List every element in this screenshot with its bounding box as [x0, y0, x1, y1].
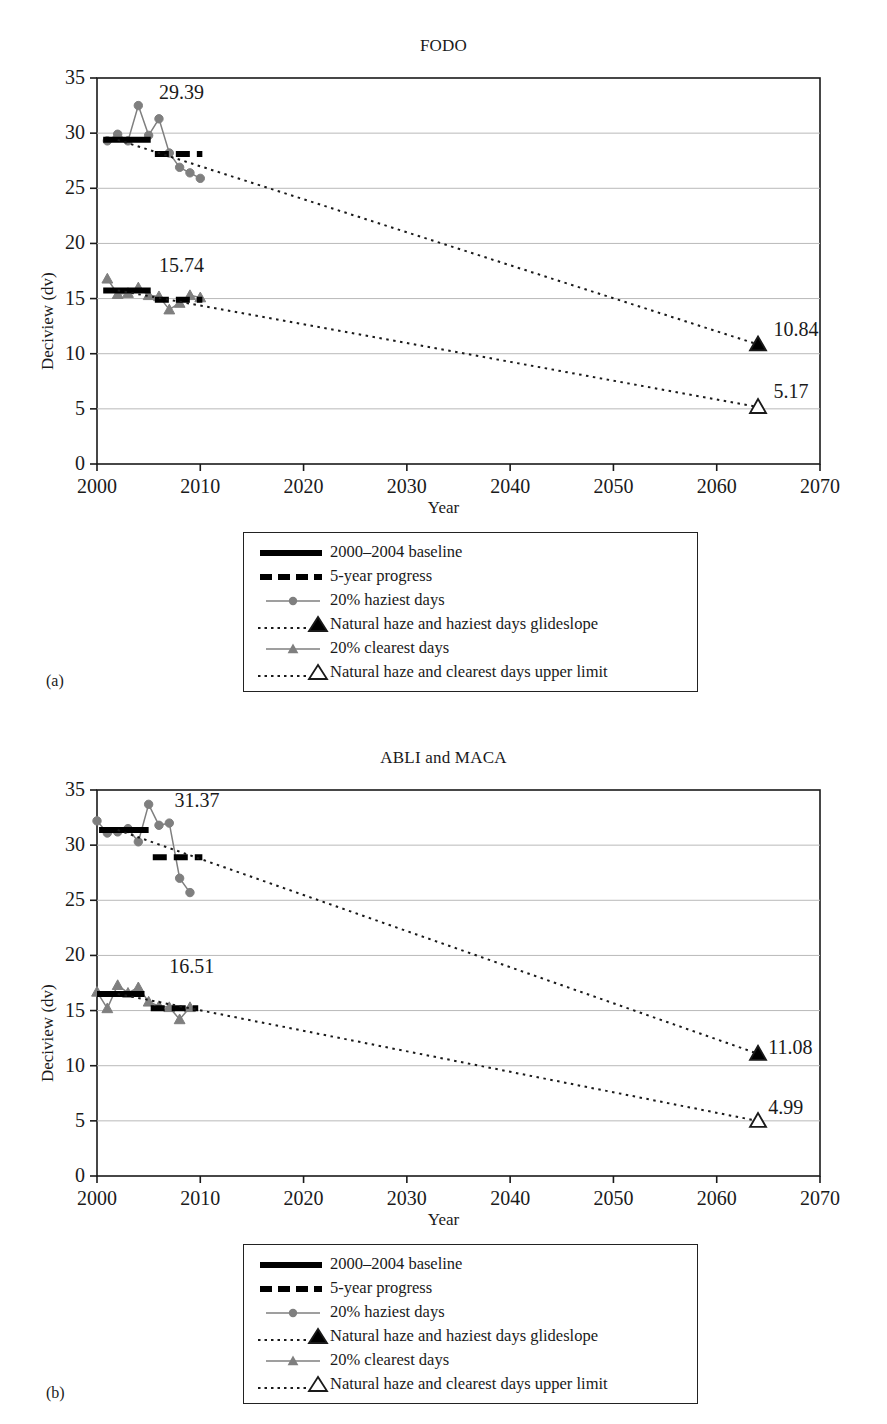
x-axis-tick-label: 2010: [180, 475, 220, 497]
data-point-marker: [134, 101, 142, 109]
data-point-marker: [186, 888, 194, 896]
y-axis-tick-label: 5: [75, 397, 85, 419]
legend-label: Natural haze and haziest days glideslope: [330, 1328, 598, 1345]
x-axis-tick-label: 2050: [593, 1187, 633, 1209]
legend-key-clearest-limit: [256, 1374, 330, 1394]
legend-label: 5-year progress: [330, 568, 432, 585]
legend-swatch-haziest-glideslope: [256, 614, 330, 634]
y-axis-tick-label: 20: [65, 943, 85, 965]
legend-key-haziest-glideslope: [256, 614, 330, 634]
legend-a: 2000–2004 baseline5-year progress20% haz…: [243, 532, 698, 692]
y-axis-tick-label: 35: [65, 778, 85, 800]
legend-item-progress: 5-year progress: [244, 1276, 697, 1300]
legend-item-baseline: 2000–2004 baseline: [244, 540, 697, 564]
x-axis-label-b: Year: [0, 1210, 887, 1230]
legend-swatch-progress: [256, 566, 330, 586]
y-axis-tick-label: 10: [65, 1054, 85, 1076]
x-axis-tick-label: 2040: [490, 1187, 530, 1209]
x-axis-tick-label: 2040: [490, 475, 530, 497]
x-axis-tick-label: 2000: [77, 1187, 117, 1209]
x-axis-tick-label: 2000: [77, 475, 117, 497]
data-point-marker: [155, 821, 163, 829]
x-axis-tick-label: 2030: [387, 475, 427, 497]
data-annotation-label: 16.51: [169, 955, 214, 977]
legend-swatch-haziest: [256, 1302, 330, 1322]
legend-label: 2000–2004 baseline: [330, 1256, 462, 1273]
data-point-marker: [175, 163, 183, 171]
legend-swatch-baseline: [256, 1254, 330, 1274]
legend-item-clearest: 20% clearest days: [244, 1348, 697, 1372]
data-point-marker: [93, 817, 101, 825]
x-axis-tick-label: 2060: [697, 1187, 737, 1209]
data-annotation-label: 31.37: [174, 789, 219, 811]
data-point-marker: [196, 174, 204, 182]
y-axis-tick-label: 15: [65, 999, 85, 1021]
legend-key-clearest-limit: [256, 662, 330, 682]
legend-label: Natural haze and clearest days upper lim…: [330, 664, 608, 681]
y-axis-tick-label: 10: [65, 342, 85, 364]
data-annotation-label: 11.08: [768, 1036, 812, 1058]
panel-label-b: (b): [46, 1384, 65, 1402]
legend-key-haziest: [256, 590, 330, 610]
plot-area-a: 0510152025303520002010202020302040205020…: [0, 0, 887, 540]
legend-swatch-haziest: [256, 590, 330, 610]
x-axis-tick-label: 2070: [800, 475, 840, 497]
x-axis-tick-label: 2020: [284, 475, 324, 497]
legend-swatch-progress: [256, 1278, 330, 1298]
y-axis-label-b: Deciview (dv): [38, 984, 58, 1082]
legend-key-baseline: [256, 542, 330, 562]
legend-key-progress: [256, 1278, 330, 1298]
y-axis-tick-label: 30: [65, 121, 85, 143]
legend-item-clearest: 20% clearest days: [244, 636, 697, 660]
data-point-marker: [134, 838, 142, 846]
data-annotation-label: 10.84: [774, 318, 819, 340]
y-axis-tick-label: 15: [65, 287, 85, 309]
data-annotation-label: 29.39: [159, 81, 204, 103]
legend-label: 2000–2004 baseline: [330, 544, 462, 561]
legend-key-clearest: [256, 1350, 330, 1370]
legend-label: 20% haziest days: [330, 1304, 445, 1321]
legend-swatch-clearest: [256, 638, 330, 658]
legend-item-clearest-limit: Natural haze and clearest days upper lim…: [244, 1372, 697, 1396]
y-axis-label-a: Deciview (dv): [38, 272, 58, 370]
legend-item-haziest-glideslope: Natural haze and haziest days glideslope: [244, 1324, 697, 1348]
x-axis-tick-label: 2050: [593, 475, 633, 497]
legend-item-haziest: 20% haziest days: [244, 588, 697, 612]
y-axis-tick-label: 25: [65, 888, 85, 910]
x-axis-tick-label: 2070: [800, 1187, 840, 1209]
data-point-marker: [155, 115, 163, 123]
y-axis-tick-label: 5: [75, 1109, 85, 1131]
data-annotation-label: 15.74: [159, 254, 204, 276]
legend-item-baseline: 2000–2004 baseline: [244, 1252, 697, 1276]
legend-key-haziest: [256, 1302, 330, 1322]
x-axis-tick-label: 2020: [284, 1187, 324, 1209]
plot-frame: [97, 78, 820, 464]
legend-key-haziest-glideslope: [256, 1326, 330, 1346]
data-point-marker: [144, 800, 152, 808]
legend-item-haziest-glideslope: Natural haze and haziest days glideslope: [244, 612, 697, 636]
data-annotation-label: 5.17: [774, 380, 809, 402]
x-axis-label-a: Year: [0, 498, 887, 518]
legend-label: 20% clearest days: [330, 640, 449, 657]
data-point-marker: [186, 169, 194, 177]
x-axis-tick-label: 2010: [180, 1187, 220, 1209]
legend-item-progress: 5-year progress: [244, 564, 697, 588]
legend-label: 20% haziest days: [330, 592, 445, 609]
legend-swatch-clearest-limit: [256, 1374, 330, 1394]
legend-swatch-baseline: [256, 542, 330, 562]
y-axis-tick-label: 30: [65, 833, 85, 855]
panel-label-a: (a): [46, 672, 64, 690]
y-axis-tick-label: 0: [75, 1164, 85, 1186]
data-point-marker: [175, 874, 183, 882]
y-axis-tick-label: 35: [65, 66, 85, 88]
x-axis-tick-label: 2030: [387, 1187, 427, 1209]
legend-label: Natural haze and haziest days glideslope: [330, 616, 598, 633]
data-point-marker: [165, 819, 173, 827]
chart-panel-b: ABLI and MACA 05101520253035200020102020…: [0, 712, 887, 1424]
plot-area-b: 0510152025303520002010202020302040205020…: [0, 712, 887, 1252]
legend-key-clearest: [256, 638, 330, 658]
legend-swatch-clearest: [256, 1350, 330, 1370]
legend-item-clearest-limit: Natural haze and clearest days upper lim…: [244, 660, 697, 684]
legend-swatch-clearest-limit: [256, 662, 330, 682]
y-axis-tick-label: 25: [65, 176, 85, 198]
